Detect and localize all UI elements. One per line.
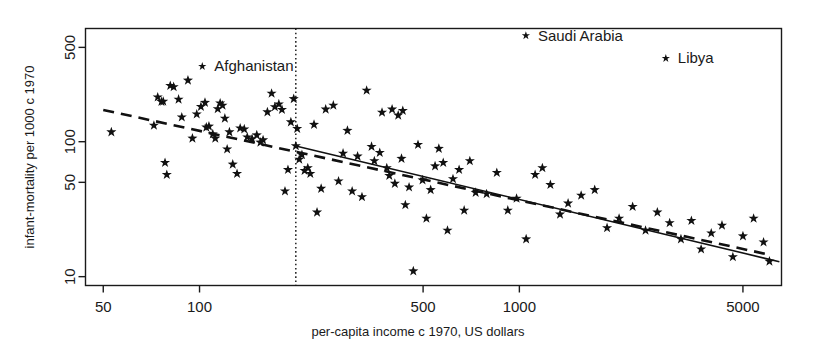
- x-tick-label: 100: [187, 298, 212, 315]
- data-point: [537, 163, 547, 173]
- y-tick-label: 100: [61, 129, 78, 154]
- data-point: [312, 207, 322, 217]
- data-point: [375, 147, 385, 157]
- data-point: [222, 144, 232, 154]
- data-point: [286, 117, 296, 127]
- data-point: [749, 213, 759, 223]
- y-tick-label: 10: [61, 268, 78, 285]
- data-point: [366, 141, 376, 151]
- data-point: [602, 223, 612, 233]
- data-point: [347, 186, 357, 196]
- data-point: [413, 139, 423, 149]
- y-axis-ticks: 1050100500: [61, 35, 86, 285]
- data-point: [530, 169, 540, 179]
- scatter-plot: 5010050010005000 1050100500 AfghanistanS…: [0, 0, 818, 361]
- data-point: [434, 143, 444, 153]
- reference-line-robust-fit-dashed: [103, 110, 768, 255]
- data-point: [192, 109, 202, 119]
- data-point: [492, 167, 502, 177]
- data-point: [408, 266, 418, 276]
- data-point: [174, 94, 184, 104]
- data-point: [430, 161, 440, 171]
- data-point: [283, 164, 293, 174]
- data-point: [421, 213, 431, 223]
- data-point: [289, 94, 299, 104]
- annotation-label: Saudi Arabia: [538, 27, 624, 44]
- data-point: [545, 179, 555, 189]
- data-point: [454, 164, 464, 174]
- data-point: [738, 231, 748, 241]
- data-point: [187, 133, 197, 143]
- data-point-group: [106, 75, 774, 275]
- annotation-group: AfghanistanSaudi ArabiaLibya: [198, 27, 714, 75]
- figure-container: 5010050010005000 1050100500 AfghanistanS…: [0, 0, 818, 361]
- annotation-label: Libya: [678, 49, 715, 66]
- annotation-marker: [522, 31, 530, 39]
- data-point: [686, 215, 696, 225]
- data-point: [706, 228, 716, 238]
- data-point: [377, 107, 387, 117]
- x-axis-title: per-capita income c 1970, US dollars: [311, 324, 525, 339]
- data-point: [404, 182, 414, 192]
- data-point: [177, 112, 187, 122]
- data-point: [232, 168, 242, 178]
- x-tick-label: 50: [95, 298, 112, 315]
- data-point: [426, 185, 436, 195]
- data-point: [280, 186, 290, 196]
- data-point: [292, 123, 302, 133]
- data-point: [628, 201, 638, 211]
- data-point: [465, 156, 475, 166]
- data-point: [652, 207, 662, 217]
- data-point: [316, 183, 326, 193]
- y-tick-label: 500: [61, 35, 78, 60]
- data-point: [357, 192, 367, 202]
- data-point: [590, 185, 600, 195]
- annotation-label: Afghanistan: [214, 57, 293, 74]
- x-tick-label: 5000: [726, 298, 759, 315]
- data-point: [390, 178, 400, 188]
- data-point: [563, 198, 573, 208]
- data-point: [342, 125, 352, 135]
- data-point: [262, 107, 272, 117]
- data-point: [220, 113, 230, 123]
- data-point: [160, 157, 170, 167]
- data-point: [228, 159, 238, 169]
- data-point: [106, 127, 116, 137]
- data-point: [183, 75, 193, 85]
- annotation-marker: [662, 54, 670, 62]
- plot-frame: [86, 29, 782, 286]
- data-point: [321, 104, 331, 114]
- data-point: [576, 190, 586, 200]
- data-point: [442, 225, 452, 235]
- y-tick-label: 50: [61, 174, 78, 191]
- data-point: [291, 141, 301, 151]
- data-point: [521, 234, 531, 244]
- data-point: [717, 220, 727, 230]
- data-point: [333, 176, 343, 186]
- data-point: [362, 85, 372, 95]
- x-tick-label: 500: [411, 298, 436, 315]
- data-point: [387, 104, 397, 114]
- reference-line-ols-fit-solid: [296, 146, 780, 262]
- data-point: [438, 157, 448, 167]
- data-point: [162, 169, 172, 179]
- data-point: [665, 218, 675, 228]
- annotation-marker: [198, 62, 206, 70]
- data-point: [400, 200, 410, 210]
- x-axis-ticks: 5010050010005000: [95, 286, 760, 315]
- data-point: [448, 174, 458, 184]
- data-point: [503, 205, 513, 215]
- data-point: [309, 119, 319, 129]
- data-point: [224, 127, 234, 137]
- x-tick-label: 1000: [503, 298, 536, 315]
- data-point: [728, 252, 738, 262]
- data-point: [459, 205, 469, 215]
- data-point: [396, 153, 406, 163]
- reference-lines: [103, 29, 779, 286]
- data-point: [267, 88, 277, 98]
- data-point: [696, 244, 706, 254]
- y-axis-title: infant-mortality per 1000 c 1970: [22, 66, 37, 249]
- data-point: [758, 237, 768, 247]
